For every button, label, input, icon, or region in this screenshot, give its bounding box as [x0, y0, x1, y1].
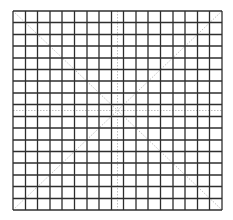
grid-canvas	[0, 0, 233, 220]
guide-lines	[13, 11, 222, 210]
grid-diagram	[0, 0, 233, 220]
